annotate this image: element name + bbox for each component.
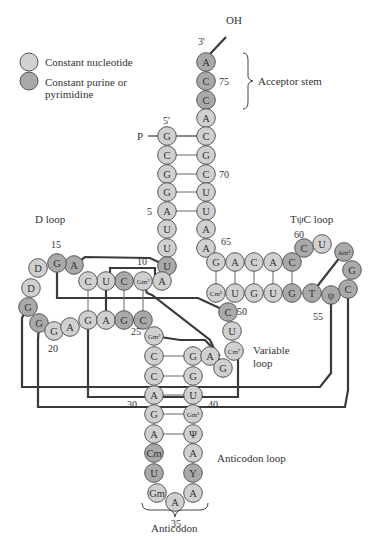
nucleotide-base: C — [288, 257, 295, 268]
nucleotide-base: G — [288, 288, 296, 299]
nucleotide-base: G — [202, 150, 210, 161]
nucleotide: A — [153, 272, 172, 291]
nucleotide: G — [184, 367, 203, 386]
nucleotide: Cm — [145, 444, 164, 463]
nucleotide: Gm — [148, 484, 167, 503]
nucleotide: A — [158, 202, 177, 221]
nucleotide-base: Gm — [149, 488, 165, 499]
nucleotide: U — [184, 386, 203, 405]
position-number: 25 — [131, 326, 141, 337]
d-loop-label: D loop — [35, 213, 66, 225]
nucleotide-base: Gm² — [137, 278, 150, 286]
nucleotide-base: A — [150, 390, 158, 401]
nucleotide-base: A — [171, 497, 179, 508]
nucleotide-base: A — [269, 257, 277, 268]
position-number: 60 — [294, 229, 304, 240]
position-number: 15 — [51, 239, 61, 250]
nucleotide-base: Cm⁵ — [210, 290, 223, 298]
nucleotide-base: G — [35, 318, 43, 329]
position-number: 30 — [127, 399, 137, 410]
nucleotide: C — [145, 347, 164, 366]
nucleotide-base: Y — [189, 468, 197, 479]
position-number: 70 — [219, 169, 229, 180]
nucleotide: C — [197, 165, 216, 184]
nucleotide-base: U — [102, 276, 110, 287]
nucleotide: G — [145, 405, 164, 424]
nucleotide: U — [313, 235, 332, 254]
nucleotide-base: A — [202, 243, 210, 254]
nucleotide-base: A — [150, 429, 158, 440]
legend-purine-label-1: Constant purine or — [45, 76, 127, 88]
nucleotide-base: C — [202, 95, 209, 106]
nucleotide-base: C — [84, 276, 91, 287]
nucleotide: G — [343, 261, 362, 280]
nucleotide: A — [184, 484, 203, 503]
nucleotide-base: U — [318, 239, 326, 250]
nucleotide-base: Gm¹ — [187, 411, 200, 419]
nucleotide: G — [245, 284, 264, 303]
nucleotide-base: Cm — [146, 448, 161, 459]
nucleotide-base: G — [348, 265, 356, 276]
nucleotide-base: Ψ — [189, 429, 197, 440]
nucleotides: ACCACGCGGCGUAUUAUAUAGm²CUCAGDDGGGAGAGCGm… — [19, 53, 362, 512]
nucleotide: U — [158, 239, 177, 258]
nucleotide: A — [264, 253, 283, 272]
anticodon-label: Anticodon — [151, 522, 198, 534]
nucleotide: G — [197, 146, 216, 165]
nucleotide: A — [97, 311, 116, 330]
nucleotide: U — [158, 220, 177, 239]
nucleotide: U — [97, 272, 116, 291]
nucleotide-base: C — [139, 315, 146, 326]
acceptor-stem-label: Acceptor stem — [258, 75, 322, 87]
nucleotide-base: U — [269, 288, 277, 299]
nucleotide-base: A — [206, 351, 214, 362]
nucleotide-base: A — [163, 206, 171, 217]
nucleotide-base: C — [202, 169, 209, 180]
nucleotide-base: G — [53, 258, 61, 269]
legend: Constant nucleotide Constant purine or p… — [20, 53, 133, 100]
nucleotide-base: G — [50, 326, 58, 337]
position-number: 20 — [48, 343, 58, 354]
nucleotide: Gm² — [134, 272, 153, 291]
nucleotide-base: Gm² — [148, 333, 161, 341]
nucleotide-base: C — [250, 257, 257, 268]
phosphate-label: P — [137, 130, 143, 142]
nucleotide-base: G — [212, 257, 220, 268]
nucleotide-base: C — [224, 307, 231, 318]
nucleotide-base: A — [66, 322, 74, 333]
nucleotide: Cm⁵ — [207, 284, 226, 303]
nucleotide: D — [29, 259, 48, 278]
nucleotide: G — [158, 165, 177, 184]
nucleotide-base: D — [34, 263, 42, 274]
nucleotide: Am¹ — [335, 243, 354, 262]
position-number: 75 — [219, 76, 229, 87]
nucleotide-base: ψ — [328, 290, 335, 301]
nucleotide-base: A — [189, 448, 197, 459]
nucleotide-base: A — [70, 260, 78, 271]
legend-purine-swatch — [20, 72, 38, 90]
nucleotide: U — [264, 284, 283, 303]
nucleotide: T — [303, 284, 322, 303]
nucleotide: A — [197, 220, 216, 239]
position-number: 5 — [147, 206, 152, 217]
nucleotide: Cm⁷ — [225, 342, 244, 361]
nucleotide: A — [226, 253, 245, 272]
five-prime-label: 5' — [163, 115, 170, 126]
nucleotide-base: U — [163, 224, 171, 235]
nucleotide: A — [145, 386, 164, 405]
position-number: 50 — [237, 306, 247, 317]
nucleotide-base: U — [228, 326, 236, 337]
nucleotide: G — [45, 322, 64, 341]
three-prime-label: 3' — [198, 36, 205, 47]
nucleotide-base: G — [250, 288, 258, 299]
nucleotide: A — [145, 425, 164, 444]
nucleotide: U — [223, 322, 242, 341]
legend-constant-swatch — [20, 53, 38, 71]
nucleotide: G — [19, 298, 38, 317]
anticodon-loop-label: Anticodon loop — [217, 452, 286, 464]
nucleotide: G — [283, 284, 302, 303]
tpsic-loop-label: TψC loop — [290, 213, 334, 225]
nucleotide: U — [197, 183, 216, 202]
nucleotide-base: C — [344, 284, 351, 295]
nucleotide: U — [226, 284, 245, 303]
